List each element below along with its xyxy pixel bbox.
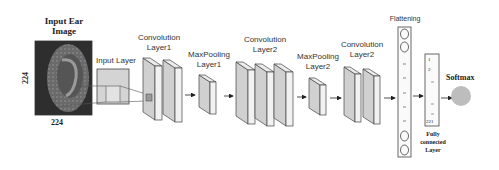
pool1-label: MaxPooling Layer1 <box>184 50 234 70</box>
conv2-label-line2: Layer2 <box>238 45 292 55</box>
conv3-label-line2: Layer2 <box>336 50 388 60</box>
conv2-label-line1: Convolution <box>238 35 292 45</box>
conv1-label-line2: Layer1 <box>134 43 184 53</box>
conv1-label: Convolution Layer1 <box>134 33 184 53</box>
fc-label-line3: Layer <box>416 146 450 154</box>
conv1-label-line1: Convolution <box>134 33 184 43</box>
input-image-title-line1: Input Ear <box>28 16 100 26</box>
conv3-label-line1: Convolution <box>336 40 388 50</box>
conv3-label: Convolution Layer2 <box>336 40 388 60</box>
fc-label: Fully connected Layer <box>416 130 450 154</box>
fc-unit-first: 1 <box>428 57 431 63</box>
fc-unit-last: 221 <box>426 119 434 125</box>
flatten-column <box>398 27 411 157</box>
softmax-node <box>451 86 471 106</box>
input-layer-label: Input Layer <box>96 56 136 66</box>
fully-connected-column <box>425 54 439 126</box>
conv2-blocks <box>236 62 293 126</box>
conv2-label: Convolution Layer2 <box>238 35 292 55</box>
input-image-title-line2: Image <box>28 26 100 36</box>
flatten-label: Flattening <box>383 14 427 24</box>
pool2-block <box>309 78 326 115</box>
image-width-label: 224 <box>51 118 63 128</box>
pool2-label-line2: Layer2 <box>293 62 343 72</box>
fc-label-line2: connected <box>416 138 450 146</box>
softmax-label: Softmax <box>446 73 474 83</box>
conv3-blocks <box>344 67 380 124</box>
pool1-label-line1: MaxPooling <box>184 50 234 60</box>
image-height-label: 224 <box>21 72 31 84</box>
pool1-block <box>199 75 216 114</box>
fc-unit-second: 2 <box>428 67 431 73</box>
fc-label-line1: Fully <box>416 130 450 138</box>
pool1-label-line2: Layer1 <box>184 60 234 70</box>
conv1-blocks <box>143 58 182 122</box>
input-image-title: Input Ear Image <box>28 16 100 36</box>
